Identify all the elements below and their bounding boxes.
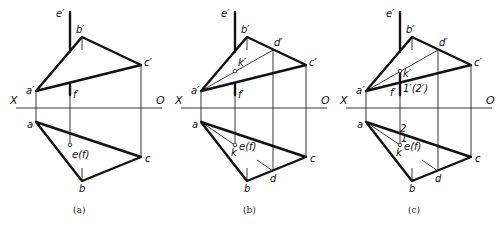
point-k-prime (398, 69, 402, 73)
label-a: a (192, 119, 198, 130)
label-f-prime: f′ (73, 89, 80, 100)
label-k: k (231, 147, 238, 158)
label-c: c (475, 153, 481, 164)
label-b: b (244, 183, 250, 194)
label-x: X (9, 94, 18, 107)
label-c: c (310, 153, 316, 164)
label-x: X (174, 94, 183, 107)
label-d: d (435, 173, 442, 184)
caption-b: (b) (243, 205, 256, 215)
label-a: a (357, 119, 363, 130)
label-d-prime: d′ (274, 37, 283, 48)
label-ef: e(f) (72, 149, 89, 160)
label-1-prime-2-prime: 1′(2′) (403, 83, 428, 94)
aux-line-a-k (201, 122, 235, 145)
label-b-prime: b′ (241, 24, 250, 35)
label-k-prime: k′ (403, 68, 412, 79)
panel-b: e′ b′ d′ c′ k′ a′ f′ X O a k e(f) c d b … (174, 8, 330, 215)
point-ef (68, 143, 72, 147)
point-k-prime (233, 69, 237, 73)
aux-line-k-d (257, 160, 273, 171)
label-a-prime: a′ (191, 85, 200, 96)
label-e-prime: e′ (56, 8, 65, 19)
label-c-prime: c′ (474, 57, 482, 68)
label-d: d (270, 173, 277, 184)
label-x: X (339, 94, 348, 107)
label-k-prime: k′ (238, 57, 247, 68)
label-f-prime: f′ (390, 87, 397, 98)
caption-a: (a) (73, 205, 85, 215)
label-c-prime: c′ (144, 57, 152, 68)
panel-a: e′ b′ c′ a′ f′ X O a e(f) c b (a) (9, 8, 165, 215)
triangle-front-view (36, 37, 141, 91)
label-ef: e(f) (239, 141, 256, 152)
label-b: b (79, 183, 85, 194)
label-a-prime: a′ (356, 85, 365, 96)
label-b: b (409, 183, 415, 194)
aux-line-k-d (422, 160, 438, 171)
label-b-prime: b′ (406, 24, 415, 35)
label-b-prime: b′ (76, 24, 85, 35)
label-f-prime: f′ (238, 89, 245, 100)
panel-c: e′ b′ d′ c′ k′ a′ f′ 1′(2′) X O a 2 1 k … (339, 8, 495, 215)
label-c-prime: c′ (309, 57, 317, 68)
projection-diagram: e′ b′ c′ a′ f′ X O a e(f) c b (a) e′ b′ (0, 0, 500, 228)
label-ef: e(f) (404, 141, 421, 152)
label-d-prime: d′ (439, 37, 448, 48)
label-o: O (156, 94, 165, 107)
label-o: O (321, 94, 330, 107)
caption-c: (c) (408, 205, 420, 215)
aux-line-a-k (366, 122, 400, 145)
label-c: c (145, 153, 151, 164)
label-e-prime: e′ (386, 8, 395, 19)
triangle-front-view (201, 37, 306, 91)
label-k: k (396, 147, 403, 158)
label-o: O (486, 94, 495, 107)
label-a: a (27, 119, 33, 130)
label-a-prime: a′ (26, 85, 35, 96)
label-e-prime: e′ (221, 8, 230, 19)
